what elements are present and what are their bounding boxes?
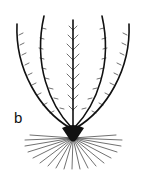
panel-label: b [14,110,22,125]
arms [17,16,129,128]
crinoid-illustration [0,0,146,170]
